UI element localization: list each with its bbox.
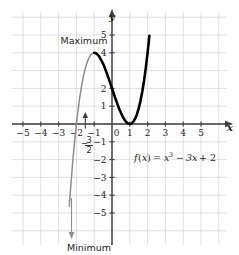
fraction-denominator: 2 [86,146,91,155]
x-tick-label: 0 [114,128,120,138]
y-tick-label: −2 [93,155,106,165]
y-tick-label: −4 [93,190,107,200]
minimum-annotation-label: Minimum [67,242,111,253]
y-tick-label: 2 [101,84,107,94]
graph-figure: −5−4−3−2−1012345 −5−4−3−2−11245 x y Maxi… [0,0,239,255]
x-tick-label: 1 [127,128,133,138]
equation-equals-sign: = [153,152,161,163]
x-tick-label: −4 [34,128,48,138]
x-tick-label: 3 [163,128,169,138]
equation-term-one-exponent: 3 [169,151,173,159]
y-tick-label: −5 [93,208,107,218]
x-tick-label: 5 [198,128,204,138]
x-tick-label: −5 [16,128,30,138]
equation-plus-sign: + [199,152,207,163]
x-tick-label: −3 [52,128,66,138]
maximum-annotation-label: Maximum [61,35,108,46]
equation-paren-close: ) [147,152,151,163]
x-tick-label: 4 [180,128,186,138]
y-tick-label: 4 [101,48,107,58]
x-tick-label: 2 [145,128,151,138]
equation-term-two: 3x [186,152,198,163]
cubic-function-plot: −5−4−3−2−1012345 −5−4−3−2−11245 x y Maxi… [0,0,239,255]
fraction-numerator: 3 [86,136,91,145]
equation-minus-sign: − [176,152,184,163]
y-tick-label: −3 [93,173,107,183]
y-tick-label: 1 [101,101,107,111]
x-axis-name-label: x [226,122,234,133]
y-tick-label: −1 [93,137,106,147]
equation-term-three: 2 [210,152,216,163]
y-axis-name-label: y [108,11,116,22]
